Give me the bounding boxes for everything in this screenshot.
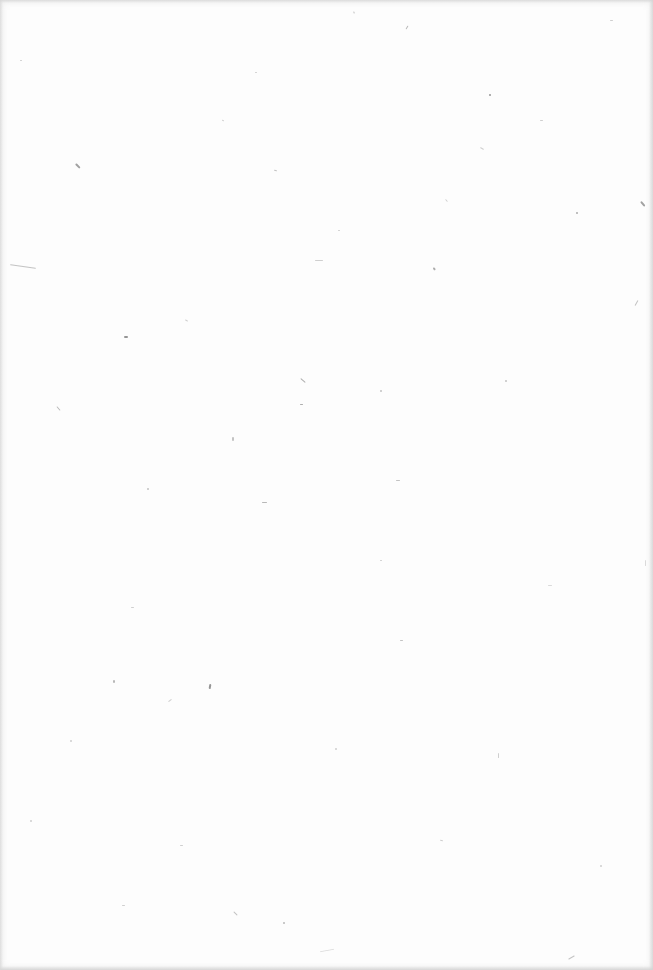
paper-speck [124,336,128,338]
paper-speck [10,264,36,269]
paper-speck [315,260,323,261]
paper-speck [70,740,72,742]
paper-speck [396,480,400,481]
paper-speck [505,380,507,382]
paper-speck [635,300,639,306]
paper-speck [433,267,436,270]
paper-speck [255,72,257,73]
paper-speck [131,607,134,608]
paper-speck [283,922,285,924]
paper-speck [640,201,645,207]
paper-speck [274,170,277,172]
page-edge-top [0,0,653,3]
paper-speck [645,560,646,566]
paper-speck [338,230,340,231]
paper-speck [122,905,125,906]
paper-speck [180,845,183,846]
paper-speck [610,20,613,21]
paper-speck [400,640,403,641]
paper-speck [489,94,491,96]
paper-speck [20,60,22,61]
paper-speck [320,949,334,952]
paper-speck [498,753,499,758]
paper-speck [406,26,409,30]
paper-speck [30,820,32,822]
paper-speck [147,488,149,490]
paper-speck [185,319,188,321]
paper-speck [232,437,234,441]
page-edge-bottom [0,966,653,970]
page-edge-right [649,0,653,970]
paper-speck [233,911,237,915]
paper-speck [568,955,575,959]
paper-speck [300,404,303,405]
paper-speck [600,865,602,867]
paper-speck [445,199,448,202]
paper-speck [380,560,382,561]
paper-speck [75,163,80,168]
paper-speck [335,748,337,750]
paper-speck [168,699,172,702]
paper-speck [113,680,115,683]
paper-speck [540,120,543,121]
paper-speck [548,585,552,586]
blank-paper-page [0,0,653,970]
paper-speck [380,390,382,392]
page-edge-left [0,0,3,970]
paper-speck [353,11,355,13]
paper-speck [57,406,61,410]
paper-speck [440,840,443,842]
paper-speck [300,378,305,383]
paper-speck [222,120,224,122]
paper-speck [576,212,578,214]
paper-speck [262,502,267,503]
paper-speck [209,684,212,689]
paper-speck [480,147,484,150]
